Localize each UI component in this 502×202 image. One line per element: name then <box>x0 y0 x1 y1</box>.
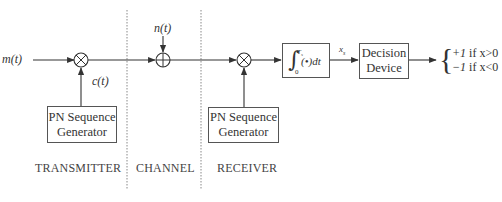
rx-pn-line2: Generator <box>210 125 277 140</box>
integrator-output-label: xs <box>339 44 345 56</box>
noise-signal-label: n(t) <box>154 21 171 36</box>
input-signal-label: m(t) <box>2 52 22 67</box>
decision-line1: Decision <box>362 46 406 61</box>
integrator-block: ∫ Ts 0 (•)dt <box>282 43 330 78</box>
tx-multiplier-icon <box>74 53 88 67</box>
section-label-receiver: RECEIVER <box>217 161 277 176</box>
tx-pn-generator-block: PN Sequence Generator <box>47 106 117 143</box>
rx-pn-generator-block: PN Sequence Generator <box>208 107 279 143</box>
channel-adder-icon <box>156 53 170 67</box>
rx-multiplier-icon <box>237 53 251 67</box>
rx-pn-line1: PN Sequence <box>210 110 277 125</box>
section-label-transmitter: TRANSMITTER <box>35 161 121 176</box>
tx-pn-line1: PN Sequence <box>49 110 116 125</box>
decision-device-block: Decision Device <box>359 43 409 79</box>
output-case-2: −1 if x<0 <box>452 60 498 74</box>
decision-line2: Device <box>362 61 406 76</box>
chip-signal-label: c(t) <box>92 74 109 89</box>
output-case-1: +1 if x>0 <box>452 46 498 60</box>
section-label-channel: CHANNEL <box>136 161 195 176</box>
tx-pn-line2: Generator <box>49 125 116 140</box>
